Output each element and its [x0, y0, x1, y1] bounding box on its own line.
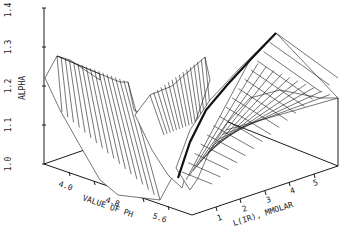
lir-tick-5: 5	[312, 178, 320, 188]
lir-tick-1: 1	[216, 213, 224, 223]
lir-tick-4: 4	[289, 186, 297, 196]
alpha-tick-1-0: 1.0	[4, 157, 13, 172]
alpha-tick-1-4: 1.4	[4, 3, 13, 18]
lir-tick-2: 2	[241, 204, 249, 214]
alpha-tick-1-3: 1.3	[4, 40, 13, 55]
alpha-tick-1-2: 1.2	[4, 79, 13, 94]
alpha-tick-1-1: 1.1	[4, 118, 13, 133]
ph-tick-5-6: 5.6	[151, 211, 168, 224]
lir-axis-label: L(IR), MMOLAR	[232, 200, 295, 228]
alpha-tick-labels: 1.0 1.1 1.2 1.3 1.4	[4, 3, 13, 172]
ph-tick-4-0: 4.0	[57, 179, 74, 192]
alpha-axis-label: ALPHA	[18, 76, 27, 100]
surface-plot: 1.0 1.1 1.2 1.3 1.4 ALPHA 4.0 4.8 5.6 VA…	[0, 0, 355, 234]
lir-tick-3: 3	[265, 195, 273, 205]
